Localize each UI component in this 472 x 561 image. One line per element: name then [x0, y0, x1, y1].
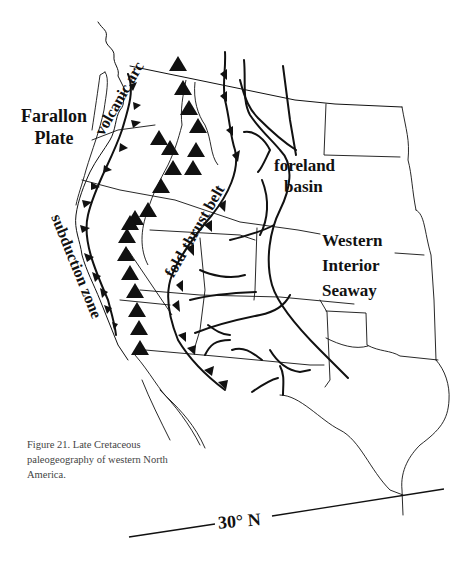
foreland-line1: foreland — [274, 157, 335, 174]
latitude-line-left — [129, 524, 215, 537]
seaway-line1: Western — [322, 228, 382, 253]
seaway-west-margin — [244, 60, 348, 378]
latitude-line-right — [272, 489, 444, 516]
farallon-line1: Farallon — [18, 107, 90, 125]
border-49n — [130, 66, 402, 107]
plate-line2: Plate — [18, 129, 90, 147]
western-interior-seaway-label: Western Interior Seaway — [322, 228, 382, 303]
seaway-line2: Interior — [322, 253, 382, 278]
latitude-label: 30° N — [217, 510, 261, 532]
farallon-plate-label: Farallon Plate — [18, 107, 90, 147]
thrust-barbs — [172, 69, 240, 390]
figure-caption: Figure 21. Late Cretaceous paleogeograph… — [27, 437, 177, 482]
paleogeography-map: Farallon Plate volcanic arc fold-thrust … — [0, 0, 472, 561]
seaway-line3: Seaway — [322, 278, 382, 303]
foreland-basin-label: foreland basin — [274, 157, 335, 195]
basin-line2: basin — [284, 178, 335, 195]
